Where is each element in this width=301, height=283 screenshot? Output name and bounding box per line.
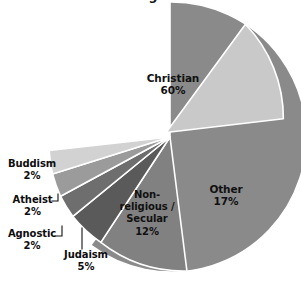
pie-label-christian-value: 60% xyxy=(138,84,208,96)
pie-label-nonreligious-line1: Non- xyxy=(116,189,178,201)
pie-label-atheist: Atheist 2% xyxy=(4,194,61,217)
pie-label-atheist-value: 2% xyxy=(4,206,61,218)
pie-label-christian: Christian 60% xyxy=(138,72,208,96)
pie-label-judaism: Judaism 5% xyxy=(57,249,115,272)
pie-label-nonreligious: Non- religious / Secular 12% xyxy=(116,189,178,238)
pie-label-buddism-name: Buddism xyxy=(0,158,64,170)
pie-label-agnostic-value: 2% xyxy=(1,240,63,252)
pie-label-nonreligious-line2: religious / xyxy=(116,201,178,213)
pie-label-judaism-name: Judaism xyxy=(57,249,115,261)
pie-label-christian-name: Christian xyxy=(138,72,208,84)
pie-chart-figure: Religion Christian 60% Other 17% Non- xyxy=(0,0,301,283)
pie-label-judaism-value: 5% xyxy=(57,261,115,273)
pie-label-nonreligious-value: 12% xyxy=(116,226,178,238)
pie-label-buddism: Buddism 2% xyxy=(0,158,64,181)
pie-label-atheist-name: Atheist xyxy=(4,194,61,206)
pie-label-nonreligious-line3: Secular xyxy=(116,213,178,225)
pie-label-other: Other 17% xyxy=(196,183,256,207)
pie-label-other-name: Other xyxy=(196,183,256,195)
pie-label-agnostic-name: Agnostic xyxy=(1,228,63,240)
pie-label-other-value: 17% xyxy=(196,195,256,207)
pie-label-buddism-value: 2% xyxy=(0,170,64,182)
pie-label-agnostic: Agnostic 2% xyxy=(1,228,63,251)
